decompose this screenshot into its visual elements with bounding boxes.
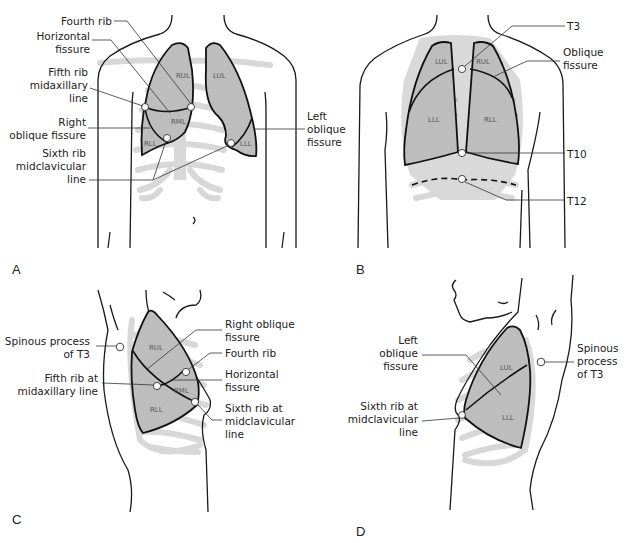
lobe-label-lll: LLL <box>428 116 440 124</box>
label-spinous-t3-l1: Spinous <box>577 342 618 354</box>
label-t10: T10 <box>566 148 587 160</box>
label-sixth-rib-l1: Sixth rib <box>42 147 86 159</box>
panel-b-right-lung <box>466 42 519 164</box>
marker-t12 <box>458 175 465 182</box>
label-sixth-rib-l2: midclavicular <box>16 160 87 172</box>
panel-d-lung: LUL LLL <box>464 326 530 448</box>
lobe-label-rul: RUL <box>149 344 163 352</box>
label-fifth-rib-l1: Fifth rib at <box>44 372 98 384</box>
navel-mark <box>193 217 195 224</box>
label-horizontal-fissure-l1: Horizontal <box>225 368 279 380</box>
label-spinous-t3-l3: of T3 <box>577 368 604 380</box>
lobe-label-rll: RLL <box>484 116 497 124</box>
panel-label-c: C <box>12 512 21 527</box>
label-left-oblique-l2: oblique <box>379 347 418 359</box>
panel-label-a: A <box>12 262 21 277</box>
marker-spinous-t3 <box>116 343 124 351</box>
label-horizontal-fissure-l1: Horizontal <box>36 30 90 42</box>
marker-sixth-rib-right <box>164 135 171 142</box>
panel-a-anterior: RUL LUL RML RLL LLL Fourth rib Horizonta… <box>9 15 346 277</box>
marker-fifth-rib <box>142 104 149 111</box>
label-fifth-rib-l3: line <box>69 92 88 104</box>
label-sixth-rib-l3: line <box>225 428 244 440</box>
label-left-oblique-l1: Left <box>307 110 327 122</box>
label-fifth-rib-l1: Fifth rib <box>48 66 88 78</box>
label-right-oblique-l1: Right oblique <box>225 318 295 330</box>
panel-c-right-lateral: RUL RML RLL Spinous process of T3 Fifth … <box>5 290 296 527</box>
marker-sixth-rib <box>191 398 198 405</box>
lobe-label-rml: RML <box>171 118 186 126</box>
label-sixth-rib-l2: midclavicular <box>348 413 419 425</box>
lobe-label-rml: RML <box>174 387 189 395</box>
marker-fourth-rib <box>188 104 195 111</box>
label-spinous-t3-l1: Spinous process <box>5 335 90 347</box>
label-left-oblique-l1: Left <box>398 334 418 346</box>
lobe-label-lll: LLL <box>502 414 514 422</box>
label-right-oblique-l1: Right <box>58 116 86 128</box>
marker-spinous-t3 <box>537 358 545 366</box>
label-spinous-t3-l2: process <box>577 355 617 367</box>
panel-b-posterior: LUL RUL LLL RLL T3 Oblique fissure T10 T… <box>356 15 604 277</box>
label-sixth-rib-l3: line <box>399 426 418 438</box>
lobe-label-lll: LLL <box>240 140 252 148</box>
lobe-label-lul: LUL <box>213 72 226 80</box>
label-oblique-fissure-l2: fissure <box>563 59 598 71</box>
label-horizontal-fissure-l2: fissure <box>55 43 90 55</box>
marker-fifth-rib <box>153 382 160 389</box>
label-left-oblique-l3: fissure <box>383 360 418 372</box>
panel-a-body-outline <box>98 15 296 248</box>
marker-t10 <box>458 149 465 156</box>
lobe-label-rll: RLL <box>150 406 163 414</box>
lobe-label-lul: LUL <box>435 58 448 66</box>
panel-a-leaders <box>88 21 305 180</box>
marker-fourth-rib <box>182 368 189 375</box>
panel-label-d: D <box>356 524 365 539</box>
label-oblique-fissure-l1: Oblique <box>563 46 604 58</box>
panel-d-face-profile <box>452 280 512 322</box>
label-t3: T3 <box>566 20 580 32</box>
panel-label-b: B <box>356 262 365 277</box>
label-fifth-rib-l2: midaxillary <box>30 79 88 91</box>
label-sixth-rib-l2: midclavicular <box>225 415 296 427</box>
label-right-oblique-l2: oblique fissure <box>9 129 86 141</box>
label-sixth-rib-l1: Sixth rib at <box>360 400 418 412</box>
label-fifth-rib-l2: midaxillary line <box>18 385 98 397</box>
lung-lobes-figure: RUL LUL RML RLL LLL Fourth rib Horizonta… <box>0 0 629 543</box>
label-sixth-rib-l3: line <box>67 173 86 185</box>
lobe-label-rul: RUL <box>176 72 190 80</box>
label-spinous-t3-l2: of T3 <box>63 348 90 360</box>
panel-d-left-lung <box>464 326 530 448</box>
lobe-label-lul: LUL <box>500 364 513 372</box>
lobe-label-rul: RUL <box>476 58 490 66</box>
label-right-oblique-l2: fissure <box>225 331 260 343</box>
label-left-oblique-l3: fissure <box>307 136 342 148</box>
label-horizontal-fissure-l2: fissure <box>225 381 260 393</box>
label-left-oblique-l2: oblique <box>307 123 346 135</box>
panel-d-left-lateral: LUL LLL Left oblique fissure Sixth rib a… <box>348 275 619 539</box>
panel-b-labels: T3 Oblique fissure T10 T12 <box>563 20 604 207</box>
lobe-label-rll: RLL <box>144 140 157 148</box>
marker-t3 <box>458 65 465 72</box>
marker-sixth-rib <box>459 412 466 419</box>
label-sixth-rib-l1: Sixth rib at <box>225 402 283 414</box>
label-t12: T12 <box>566 195 587 207</box>
label-fourth-rib: Fourth rib <box>225 347 276 359</box>
label-fourth-rib: Fourth rib <box>61 15 112 27</box>
